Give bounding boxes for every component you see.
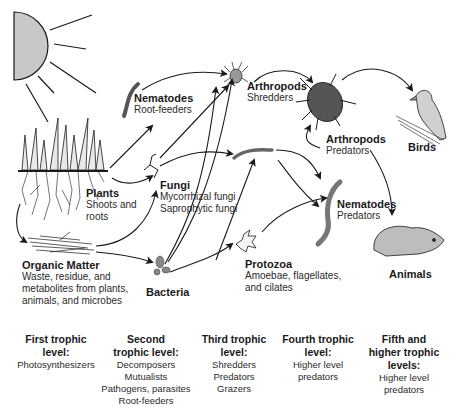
- trophic-level-4: Fourth trophic level: Higher level preda…: [268, 333, 368, 383]
- level-item: Mutualists: [96, 371, 196, 383]
- level-item: predators: [268, 371, 368, 383]
- node-animals: Animals: [389, 268, 432, 280]
- level-heading: level:: [6, 346, 106, 359]
- level-item: Root-feeders: [96, 395, 196, 407]
- node-birds: Birds: [408, 141, 436, 153]
- node-desc: and cilates: [245, 282, 341, 294]
- node-title: Plants: [86, 187, 137, 199]
- level-heading: trophic level:: [96, 346, 196, 359]
- node-desc: metabolites from plants,: [22, 283, 128, 295]
- node-title: Protozoa: [245, 258, 341, 270]
- level-item: predators: [354, 384, 454, 396]
- node-desc: Shredders: [247, 92, 307, 104]
- bird-icon: [396, 90, 446, 146]
- node-desc: Saprophytic fungi: [160, 203, 237, 215]
- trophic-level-2: Second trophic level: Decomposers Mutual…: [96, 333, 196, 407]
- node-desc: Root-feeders: [134, 104, 193, 116]
- level-heading: Second: [96, 333, 196, 346]
- level-item: Pathogens, parasites: [96, 383, 196, 395]
- node-desc: Predators: [337, 210, 396, 222]
- node-protozoa: Protozoa Amoebae, flagellates, and cilat…: [245, 258, 341, 294]
- node-desc: animals, and microbes: [22, 295, 128, 307]
- node-nematodes-root-feeders: Nematodes Root-feeders: [134, 92, 193, 116]
- node-arthropods-shredders: Arthropods Shredders: [247, 80, 307, 104]
- node-title: Nematodes: [337, 198, 396, 210]
- node-desc: Mycorrhizal fungi: [160, 191, 237, 203]
- node-desc: Amoebae, flagellates,: [245, 270, 341, 282]
- node-title: Bacteria: [146, 286, 189, 298]
- node-desc: Predators: [326, 145, 386, 157]
- node-bacteria: Bacteria: [146, 286, 189, 298]
- node-arthropods-predators: Arthropods Predators: [326, 133, 386, 157]
- node-title: Fungi: [160, 179, 237, 191]
- node-organic-matter: Organic Matter Waste, residue, and metab…: [22, 259, 128, 307]
- node-fungi: Fungi Mycorrhizal fungi Saprophytic fung…: [160, 179, 237, 215]
- level-item: Higher level: [354, 372, 454, 384]
- node-title: Birds: [408, 141, 436, 153]
- level-heading: Fifth and: [354, 333, 454, 346]
- node-title: Organic Matter: [22, 259, 128, 271]
- node-desc: roots: [86, 211, 137, 223]
- level-heading: First trophic: [6, 333, 106, 346]
- nematode-grazer-icon: [234, 150, 272, 158]
- protozoa-icon: [236, 230, 256, 252]
- level-heading: higher trophic: [354, 346, 454, 359]
- node-title: Nematodes: [134, 92, 193, 104]
- node-nematodes-predators: Nematodes Predators: [337, 198, 396, 222]
- level-item: Grazers: [184, 383, 284, 395]
- sun-icon: [14, 12, 96, 122]
- animal-icon: [374, 226, 444, 256]
- node-desc: Waste, residue, and: [22, 271, 128, 283]
- fungi-icon: [144, 154, 158, 178]
- organic-matter-icon: [28, 232, 94, 254]
- node-plants: Plants Shoots and roots: [86, 187, 137, 223]
- arthropod-shredder-icon: [224, 62, 248, 83]
- level-heading: levels:: [354, 359, 454, 372]
- node-desc: Shoots and: [86, 199, 137, 211]
- level-item: Photosynthesizers: [6, 359, 106, 371]
- level-item: Decomposers: [96, 359, 196, 371]
- trophic-level-1: First trophic level: Photosynthesizers: [6, 333, 106, 371]
- level-item: Higher level: [268, 359, 368, 371]
- node-title: Arthropods: [247, 80, 307, 92]
- level-heading: level:: [268, 346, 368, 359]
- trophic-level-5: Fifth and higher trophic levels: Higher …: [354, 333, 454, 396]
- level-heading: Fourth trophic: [268, 333, 368, 346]
- node-title: Arthropods: [326, 133, 386, 145]
- node-title: Animals: [389, 268, 432, 280]
